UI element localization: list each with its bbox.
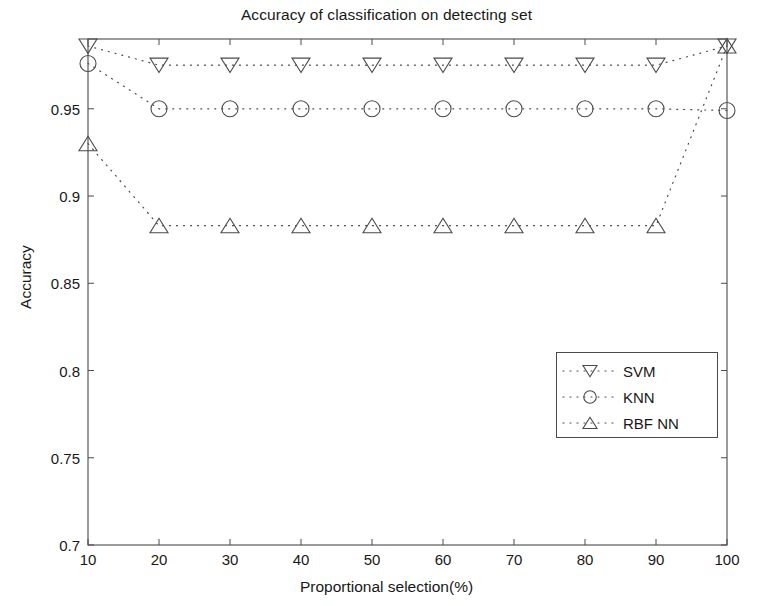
legend-item-knn[interactable]: KNN — [557, 384, 719, 410]
circle-icon — [557, 384, 623, 410]
data-point-marker — [150, 218, 168, 232]
data-point-marker — [647, 58, 665, 72]
axis-ticks — [88, 39, 727, 545]
data-point-marker — [576, 218, 594, 232]
figure-canvas: Accuracy of classification on detecting … — [0, 0, 773, 606]
data-point-marker — [221, 218, 239, 232]
legend-label: KNN — [623, 389, 655, 406]
data-point-marker — [221, 58, 239, 72]
data-point-marker — [435, 101, 451, 117]
series-svm — [79, 39, 736, 73]
legend-item-rbf-nn[interactable]: RBF NN — [557, 410, 719, 436]
legend-label: RBF NN — [623, 415, 679, 432]
series-rbf-nn — [79, 39, 736, 233]
data-point-marker — [150, 58, 168, 72]
data-point-marker — [364, 101, 380, 117]
legend-item-svm[interactable]: SVM — [557, 358, 719, 384]
data-point-marker — [292, 218, 310, 232]
legend-label: SVM — [623, 363, 656, 380]
data-point-marker — [576, 58, 594, 72]
data-series-group — [79, 39, 736, 233]
data-point-marker — [647, 218, 665, 232]
data-point-marker — [292, 58, 310, 72]
triangle-down-icon — [557, 358, 623, 384]
axes-frame — [88, 39, 727, 545]
triangle-up-icon — [557, 410, 623, 436]
legend: SVMKNNRBF NN — [556, 352, 718, 438]
plot-area — [0, 0, 773, 606]
